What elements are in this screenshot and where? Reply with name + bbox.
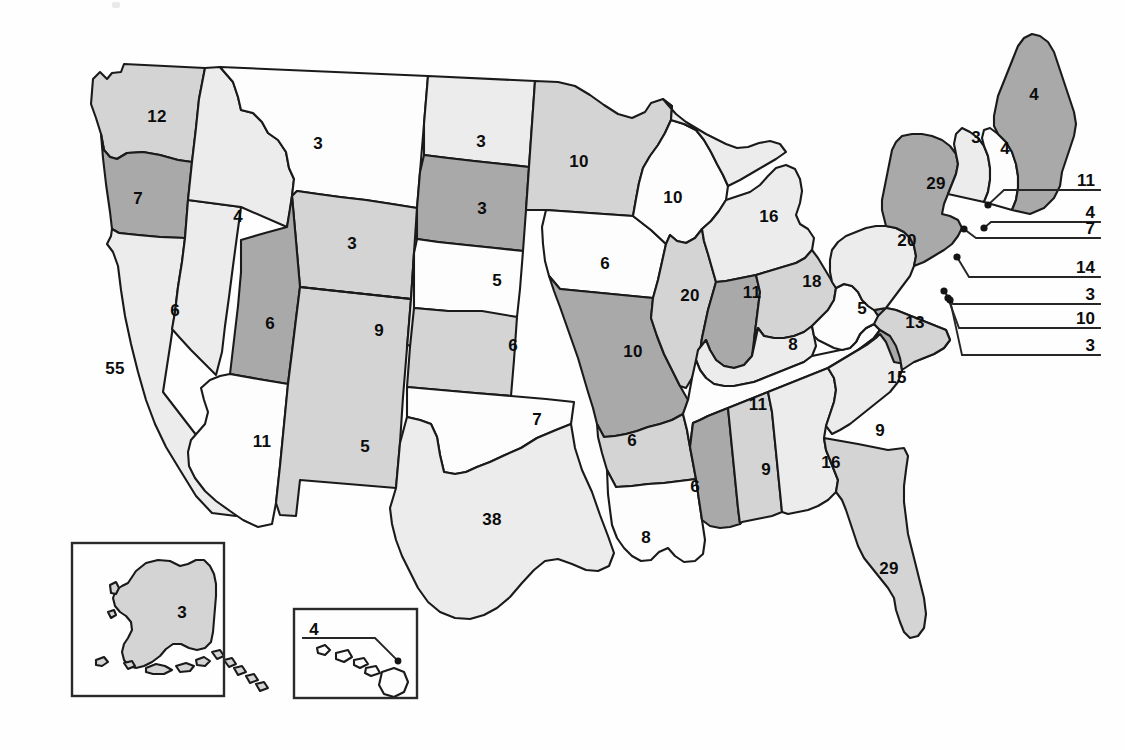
state-value-ok: 7 xyxy=(532,411,542,428)
state-shape-ak-isle-4 xyxy=(146,664,172,674)
state-shape-hi-isle-3 xyxy=(365,666,380,676)
leader-dot-ri xyxy=(980,224,987,231)
state-value-ar: 6 xyxy=(627,432,637,449)
state-shape-ak xyxy=(113,560,216,668)
state-value-id: 4 xyxy=(233,208,243,225)
state-value-nd: 3 xyxy=(476,133,486,150)
state-value-hi: 4 xyxy=(309,621,319,638)
state-value-ca: 55 xyxy=(105,360,124,377)
state-shape-ak-isle-0 xyxy=(110,582,119,594)
state-value-mo: 10 xyxy=(623,343,642,360)
state-shape-ak-isle-1 xyxy=(108,610,116,618)
state-shape-ks xyxy=(407,308,517,396)
state-value-la: 8 xyxy=(641,529,651,546)
state-value-sd: 3 xyxy=(477,200,487,217)
state-shape-nd xyxy=(424,76,535,167)
state-value-wy: 3 xyxy=(347,235,357,252)
state-shape-ne xyxy=(414,239,523,317)
leader-dot-dc xyxy=(946,296,953,303)
state-shape-ak-isle-5 xyxy=(176,663,194,672)
state-value-vt: 3 xyxy=(971,129,981,146)
callout-value-de: 3 xyxy=(1086,286,1095,303)
state-value-ga: 16 xyxy=(821,454,840,471)
state-value-oh: 18 xyxy=(802,273,821,290)
hawaii-leader-dot xyxy=(395,658,402,665)
leader-dot-de xyxy=(940,287,947,294)
us-map-graphic xyxy=(0,0,1125,750)
state-value-ms: 6 xyxy=(690,478,700,495)
callout-value-ct: 7 xyxy=(1086,220,1095,237)
state-value-nm: 5 xyxy=(360,438,370,455)
state-value-ky: 8 xyxy=(788,336,798,353)
state-value-mi: 16 xyxy=(759,208,778,225)
state-shape-ak-isle-8 xyxy=(224,658,236,667)
state-value-va: 13 xyxy=(905,314,924,331)
state-value-ks: 6 xyxy=(508,337,518,354)
state-shape-ak-isle-3 xyxy=(124,661,135,669)
state-value-nv: 6 xyxy=(170,302,180,319)
state-value-sc: 9 xyxy=(875,422,885,439)
state-value-ut: 6 xyxy=(265,315,275,332)
leader-line-ri xyxy=(984,222,1100,228)
state-value-ak: 3 xyxy=(177,604,187,621)
state-shape-hi-isle-2 xyxy=(354,658,368,668)
state-value-wa: 12 xyxy=(147,108,166,125)
state-value-pa: 20 xyxy=(897,232,916,249)
electoral-map-page: 1275564336115933567381061068102016111881… xyxy=(0,0,1125,750)
state-value-al: 9 xyxy=(761,461,771,478)
callout-value-dc: 3 xyxy=(1086,337,1095,354)
state-shape-hi-isle-4 xyxy=(379,668,408,697)
state-value-mn: 10 xyxy=(569,153,588,170)
state-value-tn: 11 xyxy=(749,396,767,413)
state-value-wv: 5 xyxy=(857,300,867,317)
leader-dot-ma xyxy=(984,201,991,208)
state-shape-nm xyxy=(276,287,411,516)
state-value-il: 20 xyxy=(680,287,699,304)
state-shape-ak-isle-9 xyxy=(234,666,246,675)
state-value-wi: 10 xyxy=(663,189,682,206)
state-value-nc: 15 xyxy=(887,369,906,386)
state-value-az: 11 xyxy=(253,433,271,450)
leader-dot-nj xyxy=(953,253,960,260)
callout-value-ma: 11 xyxy=(1077,172,1095,189)
state-shape-ak-isle-10 xyxy=(246,674,258,683)
callout-value-md: 10 xyxy=(1076,310,1095,327)
callout-value-nj: 14 xyxy=(1076,259,1095,276)
leader-dot-ct xyxy=(960,225,967,232)
state-value-mt: 3 xyxy=(313,135,323,152)
state-value-or: 7 xyxy=(133,190,143,207)
state-value-tx: 38 xyxy=(482,511,501,528)
state-value-nh: 4 xyxy=(1000,140,1010,157)
state-shape-ak-isle-7 xyxy=(212,650,224,659)
state-shape-hi-isle-0 xyxy=(317,645,330,655)
state-value-fl: 29 xyxy=(879,560,898,577)
state-shape-sd xyxy=(417,155,529,251)
state-value-ny: 29 xyxy=(926,175,945,192)
state-value-in: 11 xyxy=(743,284,761,301)
state-value-ne: 5 xyxy=(492,272,502,289)
state-shape-ak-isle-2 xyxy=(96,657,108,666)
state-shape-ak-isle-6 xyxy=(196,657,210,666)
state-value-me: 4 xyxy=(1029,86,1039,103)
state-shape-hi-isle-1 xyxy=(336,650,352,662)
state-value-co: 9 xyxy=(374,322,384,339)
state-shape-ak-isle-11 xyxy=(256,682,268,691)
leader-line-de xyxy=(944,291,1100,304)
state-value-ia: 6 xyxy=(600,255,610,272)
